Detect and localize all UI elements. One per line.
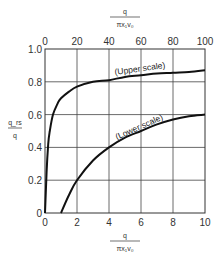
x-bottom-tick-label: 2 [74, 217, 80, 228]
y-tick-label: 1.0 [28, 44, 42, 55]
x-top-tick-label: 40 [103, 36, 115, 47]
x-bottom-label-numerator: q [123, 232, 127, 240]
x-top-tick-label: 60 [135, 36, 147, 47]
x-top-tick-label: 80 [167, 36, 179, 47]
lower-scale-annotation: (Lower scale) [114, 112, 165, 142]
x-bottom-tick-label: 6 [138, 217, 144, 228]
x-bottom-label-denominator: πx₁v₀ [116, 245, 133, 252]
x-bottom-tick-label: 0 [42, 217, 48, 228]
x-bottom-tick-label: 8 [170, 217, 176, 228]
y-tick-label: 0.6 [28, 110, 42, 121]
y-label-denominator: q [13, 132, 17, 140]
upper-scale-curve [45, 70, 205, 213]
x-top-tick-label: 100 [197, 36, 214, 47]
y-tick-label: 0.2 [28, 175, 42, 186]
y-tick-label: 0.4 [28, 142, 42, 153]
x-top-tick-label: 20 [71, 36, 83, 47]
x-bottom-tick-label: 4 [106, 217, 112, 228]
x-top-tick-label: 0 [42, 36, 48, 47]
y-label-numerator: q_rs [8, 119, 22, 127]
chart: 002204406608801010000.20.40.60.81.0 q πx… [0, 0, 219, 258]
x-bottom-tick-label: 10 [199, 217, 211, 228]
y-tick-label: 0.8 [28, 77, 42, 88]
x-top-label-denominator: πx₁v₀ [116, 21, 133, 28]
curves [45, 70, 205, 213]
y-tick-label: 0 [36, 208, 42, 219]
x-top-label-numerator: q [123, 8, 127, 16]
